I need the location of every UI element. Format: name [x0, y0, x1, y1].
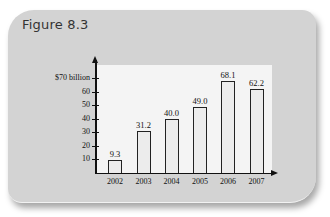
- bar-2004: [165, 119, 179, 173]
- bar-2007: [250, 89, 264, 173]
- y-tick: [92, 119, 99, 120]
- x-tick-label: 2004: [157, 177, 187, 186]
- y-tick-label: 10: [82, 155, 90, 163]
- y-tick: [92, 159, 99, 160]
- y-tick: [92, 105, 99, 106]
- y-tick: [92, 92, 99, 93]
- x-tick-label: 2006: [213, 177, 243, 186]
- x-tick-label: 2007: [242, 177, 272, 186]
- bar-value-label: 49.0: [185, 96, 215, 106]
- x-axis-arrow-icon: [271, 170, 278, 176]
- x-tick-label: 2005: [185, 177, 215, 186]
- x-tick-label: 2003: [129, 177, 159, 186]
- bar-2006: [221, 81, 235, 173]
- y-tick: [92, 78, 99, 79]
- y-tick-label: 20: [82, 142, 90, 150]
- y-tick-label: 50: [82, 101, 90, 109]
- bar-value-label: 62.2: [242, 78, 272, 88]
- bar-2005: [193, 107, 207, 173]
- bar-value-label: 9.3: [100, 149, 130, 159]
- y-tick-label: 60: [82, 88, 90, 96]
- bar-value-label: 68.1: [213, 70, 243, 80]
- y-tick-label: 30: [82, 128, 90, 136]
- y-axis: [95, 60, 97, 174]
- y-tick: [92, 132, 99, 133]
- y-axis-arrow-icon: [92, 56, 98, 63]
- y-tick: [92, 146, 99, 147]
- x-tick-label: 2002: [100, 177, 130, 186]
- y-tick-label: $70 billion: [55, 74, 90, 82]
- bar-2003: [137, 131, 151, 173]
- figure-title: Figure 8.3: [22, 17, 89, 32]
- bar-value-label: 40.0: [157, 108, 187, 118]
- bar-value-label: 31.2: [129, 120, 159, 130]
- y-tick-label: 40: [82, 115, 90, 123]
- bar-2002: [108, 160, 122, 173]
